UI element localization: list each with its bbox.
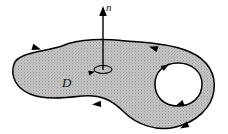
region-D-shape bbox=[13, 40, 215, 129]
region-label-D: D bbox=[62, 76, 71, 89]
outer-arrow-bottom-left bbox=[92, 101, 101, 108]
oriented-surface-diagram bbox=[0, 0, 228, 134]
region-D-fill bbox=[13, 40, 215, 129]
figure-container: n D bbox=[0, 0, 228, 134]
normal-vector-label: n bbox=[106, 2, 112, 13]
inner-hole-boundary-curve bbox=[155, 63, 202, 106]
inner-boundary-arrowheads bbox=[161, 62, 185, 108]
